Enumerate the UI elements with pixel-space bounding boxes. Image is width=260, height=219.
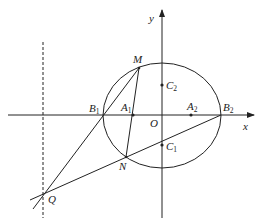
point-A1 (131, 113, 134, 116)
point-A2 (189, 113, 192, 116)
label-B2: B2 (223, 101, 234, 115)
label-C2: C2 (166, 79, 177, 93)
label-C1: C1 (166, 140, 177, 154)
label-M: M (132, 53, 143, 65)
label-Q: Q (48, 193, 56, 205)
label-x: x (242, 120, 248, 132)
diagram-canvas: y x O M N Q B1 B2 A1 A2 C1 C2 (0, 0, 260, 219)
point-C2 (160, 83, 163, 86)
label-A1: A1 (120, 101, 132, 115)
label-y: y (148, 12, 154, 24)
point-N (125, 156, 128, 159)
label-N: N (118, 160, 127, 172)
label-O: O (150, 117, 158, 129)
label-B1: B1 (89, 102, 100, 116)
label-A2: A2 (186, 100, 198, 114)
point-M (138, 67, 141, 70)
geometry-figure: y x O M N Q B1 B2 A1 A2 C1 C2 (0, 0, 260, 219)
line-QM (33, 68, 139, 209)
point-C1 (160, 143, 163, 146)
